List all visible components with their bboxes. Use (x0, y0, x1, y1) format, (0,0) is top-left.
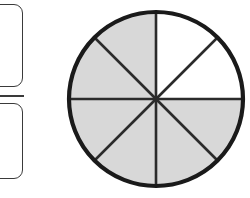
pie-svg (65, 5, 247, 195)
fraction-answer-widget (0, 0, 30, 198)
numerator-input-box[interactable] (0, 4, 23, 87)
denominator-input-box[interactable] (0, 103, 23, 179)
fraction-bar-divider (0, 95, 24, 97)
fraction-model-screenshot (0, 0, 250, 198)
pie-fraction-diagram (65, 5, 247, 195)
